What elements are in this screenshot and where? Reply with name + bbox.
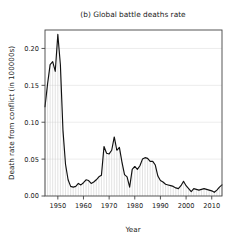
- x-tick-label: 1980: [126, 202, 143, 210]
- x-tick-label: 2000: [178, 202, 195, 210]
- chart-title: (b) Global battle deaths rate: [80, 10, 186, 19]
- y-tick-label: 0.15: [24, 82, 39, 90]
- y-tick-label: 0.00: [24, 192, 39, 200]
- y-tick-label: 0.20: [24, 45, 39, 53]
- y-tick-label: 0.05: [24, 156, 39, 164]
- x-tick-label: 1950: [49, 202, 66, 210]
- chart-figure: (b) Global battle deaths rate 0.000.050.…: [0, 0, 245, 239]
- y-tick-label: 0.10: [24, 119, 39, 127]
- y-axis-title: Death rate from conflict (in 100000s): [7, 46, 16, 180]
- x-tick-label: 1970: [101, 202, 118, 210]
- x-tick-label: 1990: [152, 202, 169, 210]
- x-tick-label: 1960: [75, 202, 92, 210]
- x-tick-label: 2010: [203, 202, 220, 210]
- x-axis-title: Year: [124, 225, 140, 234]
